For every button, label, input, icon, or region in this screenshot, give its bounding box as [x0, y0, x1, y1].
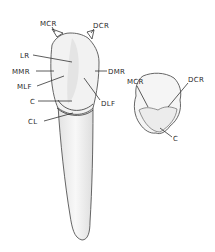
label-dmr: DMR	[108, 68, 125, 76]
label-incisal-dcr: DCR	[188, 76, 204, 84]
tooth-root	[58, 105, 93, 240]
label-mlf: MLF	[17, 83, 32, 91]
label-incisal-mcr: MCR	[127, 78, 144, 86]
label-incisal-c: C	[173, 135, 178, 143]
label-mmr: MMR	[12, 68, 30, 76]
lingual-view-tooth	[51, 29, 99, 240]
label-mcr: MCR	[40, 20, 57, 28]
label-c: C	[30, 98, 35, 106]
label-dcr: DCR	[93, 22, 109, 30]
label-lr: LR	[20, 52, 29, 60]
tooth-diagram: MCR DCR LR MMR DMR MLF DLF C CL MCR DCR …	[0, 0, 215, 252]
label-dlf: DLF	[101, 100, 115, 108]
label-cl: CL	[28, 118, 37, 126]
